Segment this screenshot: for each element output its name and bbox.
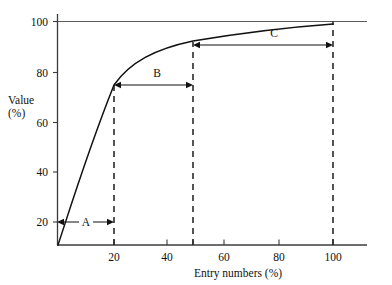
- x-tick-label-40: 40: [161, 251, 173, 263]
- segment-b-annotation: B: [114, 67, 193, 88]
- segment-b-arrowhead-right: [186, 82, 193, 88]
- x-tick-label-20: 20: [108, 251, 120, 263]
- x-axis-title: Entry numbers (%): [194, 267, 282, 280]
- segment-a-label: A: [82, 216, 91, 228]
- y-axis-title-line2: (%): [8, 107, 25, 120]
- y-tick-label-40: 40: [37, 166, 49, 178]
- segment-a-annotation: A: [57, 215, 114, 229]
- segment-c-arrowhead-right: [326, 42, 333, 48]
- segment-c-arrowhead-left: [193, 42, 200, 48]
- x-tick-label-60: 60: [218, 251, 230, 263]
- pareto-chart: 100 80 60 40 20 20 40 60 80 100 Entry nu…: [0, 0, 392, 285]
- y-tick-label-80: 80: [37, 67, 49, 79]
- segment-c-label: C: [270, 27, 278, 39]
- chart-canvas: 100 80 60 40 20 20 40 60 80 100 Entry nu…: [0, 0, 392, 285]
- x-tick-label-100: 100: [324, 251, 342, 263]
- y-axis-title-line1: Value: [8, 94, 34, 106]
- y-tick-label-20: 20: [37, 216, 49, 228]
- y-tick-label-100: 100: [31, 16, 49, 28]
- x-tick-label-80: 80: [273, 251, 285, 263]
- segment-a-arrowhead-right: [107, 219, 114, 225]
- value-curve: [58, 24, 333, 245]
- segment-b-label: B: [153, 67, 161, 79]
- y-tick-label-60: 60: [37, 117, 49, 129]
